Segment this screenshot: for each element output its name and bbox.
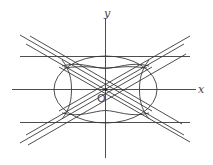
x-axis-label: x [198,83,205,96]
origin-point [104,88,107,91]
conic-diagram: y x O [0,0,213,165]
line-ascending-upper [59,36,190,111]
y-axis-label: y [103,7,111,20]
origin-label: O [97,92,106,105]
line-descending-upper [20,35,152,111]
